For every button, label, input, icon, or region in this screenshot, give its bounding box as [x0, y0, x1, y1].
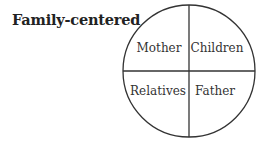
quadrant-father: Father: [195, 84, 235, 98]
quadrant-relatives: Relatives: [130, 84, 186, 98]
quadrant-children: Children: [191, 41, 244, 55]
quadrant-mother: Mother: [137, 41, 182, 55]
quadrant-circle: [0, 0, 269, 142]
